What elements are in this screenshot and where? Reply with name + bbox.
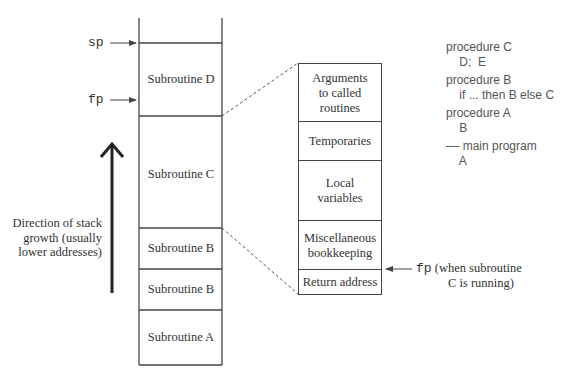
growth-label-line3: lower addresses) xyxy=(8,245,102,260)
arguments-line2: to called xyxy=(312,86,367,101)
stack-frame-subroutine-b-2: Subroutine B xyxy=(139,282,223,297)
bookkeeping-line1: Miscellaneous xyxy=(304,231,376,246)
code-line: D; E xyxy=(446,55,486,69)
frame-cell-bookkeeping: Miscellaneous bookkeeping xyxy=(299,221,381,270)
return-address-text: Return address xyxy=(303,275,378,290)
fp-running-note: fp (when subroutine xyxy=(416,261,522,276)
fp-note-line2: C is running) xyxy=(448,276,514,291)
code-line: A xyxy=(446,154,467,168)
fp-right-label: fp xyxy=(416,261,432,276)
frame-cell-local-variables: Local variables xyxy=(299,161,381,221)
code-line: if ... then B else C xyxy=(446,88,554,102)
frame-cell-return-address: Return address xyxy=(299,270,381,294)
sp-label: sp xyxy=(88,35,104,50)
diagram-lines xyxy=(0,0,572,381)
fp-note-line1: (when subroutine xyxy=(435,261,522,275)
code-line: B xyxy=(446,121,467,135)
growth-label-line1: Direction of stack xyxy=(8,216,102,231)
local-line1: Local xyxy=(317,176,362,191)
connector-bottom-dashed xyxy=(222,228,298,294)
stack-frame-subroutine-d: Subroutine D xyxy=(139,72,223,87)
bookkeeping-line2: bookkeeping xyxy=(304,246,376,261)
stack-frame-subroutine-a: Subroutine A xyxy=(139,330,223,345)
arguments-line3: routines xyxy=(312,101,367,116)
stack-frame-subroutine-c: Subroutine C xyxy=(139,167,223,182)
temporaries-text: Temporaries xyxy=(309,134,371,149)
code-line: procedure A xyxy=(446,106,511,120)
arguments-line1: Arguments xyxy=(312,71,367,86)
code-line: procedure C xyxy=(446,40,512,54)
connector-top-dashed xyxy=(222,63,298,116)
local-line2: variables xyxy=(317,191,362,206)
frame-cell-temporaries: Temporaries xyxy=(299,122,381,161)
code-line: –– main program xyxy=(446,139,537,153)
code-line: procedure B xyxy=(446,73,511,87)
frame-cell-arguments: Arguments to called routines xyxy=(299,64,381,122)
growth-direction-label: Direction of stack growth (usually lower… xyxy=(8,216,102,260)
fp-label: fp xyxy=(88,92,104,107)
frame-detail-box: Arguments to called routines Temporaries… xyxy=(298,63,382,295)
stack-frame-subroutine-b-1: Subroutine B xyxy=(139,241,223,256)
growth-label-line2: growth (usually xyxy=(8,231,102,246)
